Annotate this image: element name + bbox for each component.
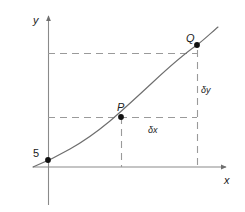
point-y-intercept (45, 157, 51, 163)
y-intercept-label: 5 (33, 148, 39, 159)
y-axis-label: y (33, 15, 39, 26)
x-axis-label: x (224, 175, 230, 186)
exponential-curve (33, 27, 218, 167)
exponential-chord-diagram: y x P Q δx δy 5 (0, 0, 245, 212)
delta-x-label: δx (148, 126, 158, 135)
point-q-label: Q (186, 33, 195, 44)
delta-y-label: δy (201, 86, 211, 95)
point-p-label: P (117, 102, 124, 113)
point-p (118, 114, 124, 120)
